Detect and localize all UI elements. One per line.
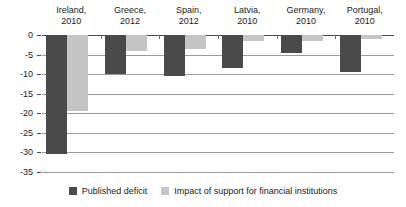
category-label-line: Latvia,: [218, 5, 277, 16]
y-axis-tick-mark: [37, 113, 41, 114]
legend-item-impact-of-support: Impact of support for financial institut…: [161, 186, 337, 196]
y-axis-tick-mark: [37, 55, 41, 56]
category-label-line: Spain,: [159, 5, 218, 16]
category-separator-tick: [335, 35, 336, 39]
category-label: Greece,2012: [101, 5, 160, 27]
legend-item-published-deficit: Published deficit: [69, 186, 148, 196]
category-label-line: 2010: [218, 16, 277, 27]
bar-group: Portugal,2010: [335, 0, 394, 207]
category-label-line: 2012: [159, 16, 218, 27]
legend-swatch-icon-impact-of-support: [161, 187, 169, 195]
y-axis-tick-mark: [37, 152, 41, 153]
category-separator-tick: [277, 35, 278, 39]
bars: [101, 35, 160, 172]
category-label-line: 2010: [277, 16, 336, 27]
category-label: Ireland,2010: [42, 5, 101, 27]
bar-group: Ireland,2010: [42, 0, 101, 207]
y-axis-tick-label: -20: [20, 109, 33, 118]
y-axis-tick-mark: [37, 94, 41, 95]
category-label-line: Greece,: [101, 5, 160, 16]
deficit-bar-chart: 0-5-10-15-20-25-30-35 Ireland,2010Greece…: [0, 0, 406, 207]
legend-swatch-icon-published-deficit: [69, 187, 77, 195]
bar: [222, 35, 243, 68]
y-axis-tick-mark: [37, 74, 41, 75]
bar-group: Spain,2012: [159, 0, 218, 207]
bar-group: Latvia,2010: [218, 0, 277, 207]
category-label-line: 2010: [42, 16, 101, 27]
y-axis-tick-label: -30: [20, 148, 33, 157]
bar: [302, 35, 323, 41]
y-axis-tick-label: -15: [20, 90, 33, 99]
y-axis-tick-mark: [37, 172, 41, 173]
bars: [42, 35, 101, 172]
y-axis-tick-label: -5: [25, 51, 33, 60]
bar: [281, 35, 302, 53]
bars: [159, 35, 218, 172]
category-separator-tick: [101, 35, 102, 39]
bar-group: Germany,2010: [277, 0, 336, 207]
bar: [164, 35, 185, 76]
bar: [67, 35, 88, 111]
chart-legend: Published deficit Impact of support for …: [0, 186, 406, 196]
bar: [243, 35, 264, 41]
category-label-line: Ireland,: [42, 5, 101, 16]
y-axis-tick-label: -10: [20, 70, 33, 79]
bar: [46, 35, 67, 154]
category-label-line: 2012: [101, 16, 160, 27]
bar: [126, 35, 147, 51]
y-axis-tick-label: -25: [20, 129, 33, 138]
category-label-line: 2010: [335, 16, 394, 27]
y-axis-tick-mark: [37, 133, 41, 134]
category-separator-tick: [159, 35, 160, 39]
category-label-line: Germany,: [277, 5, 336, 16]
legend-label-impact-of-support: Impact of support for financial institut…: [174, 186, 337, 196]
category-label: Latvia,2010: [218, 5, 277, 27]
category-label: Portugal,2010: [335, 5, 394, 27]
category-label: Germany,2010: [277, 5, 336, 27]
bar-group: Greece,2012: [101, 0, 160, 207]
bars: [277, 35, 336, 172]
bar: [185, 35, 206, 49]
legend-label-published-deficit: Published deficit: [82, 186, 148, 196]
y-axis-tick-label: -35: [20, 168, 33, 177]
bars: [218, 35, 277, 172]
category-separator-tick: [218, 35, 219, 39]
bar: [340, 35, 361, 72]
bars: [335, 35, 394, 172]
y-axis: 0-5-10-15-20-25-30-35: [0, 0, 42, 207]
bar: [105, 35, 126, 74]
category-label: Spain,2012: [159, 5, 218, 27]
y-axis-tick-mark: [37, 35, 41, 36]
y-axis-tick-label: 0: [28, 31, 33, 40]
category-label-line: Portugal,: [335, 5, 394, 16]
bar: [361, 35, 382, 39]
